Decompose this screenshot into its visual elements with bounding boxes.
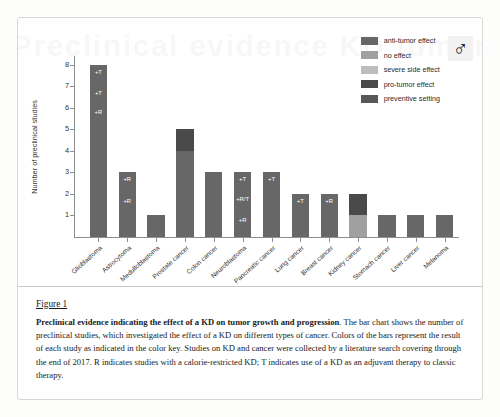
bar-annotation: +R bbox=[95, 110, 103, 116]
y-axis-tick-label: 5 bbox=[56, 125, 69, 132]
document-page: Preclinical evidence KD tumor ♂ anti-tum… bbox=[0, 0, 500, 417]
bar-annotation: +R bbox=[123, 199, 131, 205]
bar-annotation: +R/T bbox=[236, 197, 249, 203]
bar-annotation: +T bbox=[95, 91, 102, 97]
bar-segment bbox=[436, 215, 453, 237]
bar-segment bbox=[205, 172, 222, 237]
y-axis-tick-label: 2 bbox=[56, 190, 69, 197]
legend-label: anti-tumor effect bbox=[384, 36, 436, 45]
y-axis-tick-label: 7 bbox=[56, 82, 69, 89]
x-axis-tick-label: Melanoma bbox=[422, 244, 450, 270]
x-axis-tick bbox=[185, 238, 186, 242]
y-axis-tick-label: 8 bbox=[56, 61, 69, 68]
y-axis-tick-label: 6 bbox=[56, 104, 69, 111]
bar-annotation: +R bbox=[123, 177, 131, 183]
x-axis-tick bbox=[358, 238, 359, 242]
figure-card: Preclinical evidence KD tumor ♂ anti-tum… bbox=[17, 17, 483, 400]
x-axis-tick bbox=[156, 238, 157, 242]
bar-segment bbox=[378, 215, 395, 237]
bar bbox=[407, 215, 424, 237]
bar-annotation: +R bbox=[325, 199, 333, 205]
y-axis-tick bbox=[70, 172, 74, 173]
bar-segment bbox=[176, 151, 193, 237]
y-axis-tick bbox=[70, 86, 74, 87]
bar-segment bbox=[407, 215, 424, 237]
bar-segment bbox=[349, 215, 366, 237]
bar-segment bbox=[349, 194, 366, 216]
bar-annotation: +T bbox=[297, 199, 304, 205]
y-axis-tick bbox=[70, 215, 74, 216]
x-axis-tick-label: Liver cancer bbox=[389, 244, 420, 273]
bar-annotation: +R bbox=[239, 218, 247, 224]
caption-divider bbox=[18, 286, 483, 287]
y-axis-tick bbox=[70, 194, 74, 195]
x-axis-tick bbox=[243, 238, 244, 242]
bar bbox=[349, 194, 366, 237]
legend-swatch bbox=[361, 37, 378, 45]
bar-chart: ♂ anti-tumor effectno effectsevere side … bbox=[18, 18, 483, 282]
caption-text: Preclinical evidence indicating the effe… bbox=[36, 316, 466, 382]
x-axis bbox=[74, 237, 459, 238]
x-axis-tick bbox=[214, 238, 215, 242]
x-axis-tick-label: Glioblastoma bbox=[70, 244, 103, 275]
y-axis-tick bbox=[70, 65, 74, 66]
bar bbox=[205, 172, 222, 237]
figure-caption: Figure 1 Preclinical evidence indicating… bbox=[36, 299, 466, 382]
x-axis-tick bbox=[387, 238, 388, 242]
y-axis-tick-label: 4 bbox=[56, 147, 69, 154]
bar-container: +T+T+R+R+R+T+R/T+R+T+T+R bbox=[74, 56, 459, 237]
x-axis-tick bbox=[416, 238, 417, 242]
bar-segment bbox=[176, 129, 193, 151]
bar bbox=[147, 215, 164, 237]
legend-item: anti-tumor effect bbox=[361, 36, 440, 45]
caption-bold-lead: Preclinical evidence indicating the effe… bbox=[36, 317, 339, 327]
bar bbox=[176, 129, 193, 237]
bar-annotation: +T bbox=[268, 177, 275, 183]
bar bbox=[378, 215, 395, 237]
x-axis-tick bbox=[445, 238, 446, 242]
bar-annotation: +T bbox=[239, 177, 246, 183]
bar-annotation: +T bbox=[95, 70, 102, 76]
bar bbox=[436, 215, 453, 237]
y-axis-label: Number of preclinical studies bbox=[30, 100, 39, 194]
x-axis-tick bbox=[127, 238, 128, 242]
plot-area: Number of preclinical studies +T+T+R+R+R… bbox=[74, 56, 459, 238]
y-axis-tick-label: 1 bbox=[56, 211, 69, 218]
x-axis-tick bbox=[272, 238, 273, 242]
y-axis-tick-label: 3 bbox=[56, 168, 69, 175]
y-axis-tick bbox=[70, 129, 74, 130]
x-axis-tick bbox=[329, 238, 330, 242]
y-axis-tick bbox=[70, 108, 74, 109]
x-axis-tick bbox=[300, 238, 301, 242]
bar-segment bbox=[147, 215, 164, 237]
figure-number: Figure 1 bbox=[36, 299, 466, 309]
y-axis-tick bbox=[70, 151, 74, 152]
x-axis-tick bbox=[98, 238, 99, 242]
